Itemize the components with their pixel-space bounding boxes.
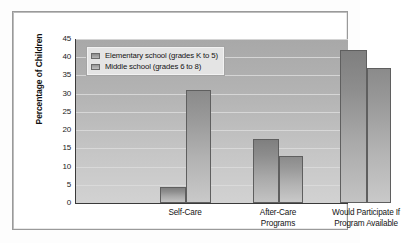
y-tick-label: 15 — [63, 144, 72, 152]
legend-label: Middle school (grades 6 to 8) — [105, 62, 201, 71]
legend-swatch-icon — [91, 64, 100, 70]
plot-area: Elementary school (grades K to 5) Middle… — [75, 39, 348, 204]
bar — [367, 68, 391, 203]
y-tick-label: 40 — [63, 53, 72, 61]
gridline — [76, 185, 348, 186]
y-tick-label: 30 — [63, 90, 72, 98]
gridline — [76, 112, 348, 113]
gridline — [76, 94, 348, 95]
y-tick-label: 10 — [63, 163, 72, 171]
x-axis-category-label: Would Participate IfProgram Available — [310, 208, 405, 229]
gridline — [76, 130, 348, 131]
legend: Elementary school (grades K to 5) Middle… — [86, 46, 225, 76]
x-axis-category-label: Self-Care — [140, 208, 230, 219]
bar — [160, 187, 186, 203]
y-axis-tick-labels: 45 40 35 30 25 20 15 10 5 0 — [49, 39, 71, 203]
y-tick-label: 25 — [63, 108, 72, 116]
bar — [279, 156, 303, 203]
y-axis-title: Percentage of Children — [34, 11, 44, 147]
y-tick-label: 35 — [63, 71, 72, 79]
y-tick-label: 45 — [63, 35, 72, 43]
gridline — [76, 167, 348, 168]
legend-item: Middle school (grades 6 to 8) — [91, 61, 218, 72]
chart-frame: Percentage of Children 45 40 35 30 25 20… — [12, 11, 348, 230]
gridline — [76, 39, 348, 40]
legend-item: Elementary school (grades K to 5) — [91, 50, 218, 61]
legend-swatch-icon — [91, 53, 100, 59]
gridline — [76, 148, 348, 149]
legend-label: Elementary school (grades K to 5) — [105, 51, 218, 60]
bar — [253, 139, 279, 203]
y-tick-label: 0 — [67, 199, 71, 207]
bar — [340, 50, 367, 203]
bar — [186, 90, 211, 203]
y-tick-label: 5 — [67, 181, 71, 189]
y-tick-label: 20 — [63, 126, 72, 134]
